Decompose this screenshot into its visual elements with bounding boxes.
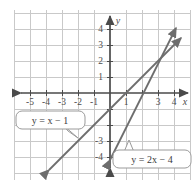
y-tick-label: -3	[95, 136, 103, 146]
x-tick-label: -1	[90, 97, 98, 107]
y-axis-label: y	[115, 15, 121, 26]
x-tick-label: 3	[156, 97, 161, 107]
callout-line1-label: y = x − 1	[32, 115, 68, 126]
y-tick-label: 1	[98, 72, 103, 82]
x-tick-label: 1	[124, 97, 129, 107]
callout-line2-label: y = 2x − 4	[131, 154, 172, 165]
x-axis-label: x	[182, 96, 188, 107]
y-tick-label: 3	[98, 40, 103, 50]
y-tick-label: -4	[95, 152, 103, 162]
x-tick-label: -3	[58, 97, 66, 107]
x-tick-label: -4	[42, 97, 50, 107]
y-tick-label: 2	[98, 56, 103, 66]
coordinate-plane-svg: -5 -4 -3 -2 -1 1 3 4 4 3 2 1 -3 -4 y x	[0, 0, 196, 187]
x-tick-label: -2	[74, 97, 82, 107]
x-tick-label: 4	[172, 97, 177, 107]
x-tick-label: -5	[26, 97, 34, 107]
graph-figure: -5 -4 -3 -2 -1 1 3 4 4 3 2 1 -3 -4 y x	[0, 0, 196, 187]
y-tick-label: 4	[98, 24, 103, 34]
